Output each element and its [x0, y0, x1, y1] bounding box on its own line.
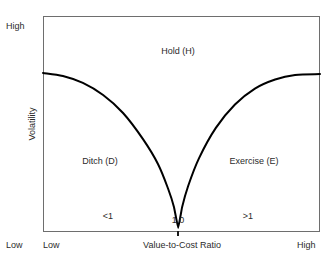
x-axis-tick-1p0: [172, 230, 184, 240]
x-tick-label-greater-than-one: >1: [243, 212, 253, 221]
x-tick-label-one: 1.0: [172, 216, 185, 225]
y-axis-low-label: Low: [6, 241, 23, 250]
region-label-exercise: Exercise (E): [229, 157, 278, 166]
y-axis-title: Volatility: [26, 16, 38, 232]
x-tick-label-less-than-one: <1: [103, 212, 113, 221]
option-space-chart: High Low Low High Volatility Value-to-Co…: [0, 0, 334, 268]
region-label-hold: Hold (H): [161, 47, 195, 56]
region-label-ditch: Ditch (D): [82, 157, 118, 166]
x-axis-low-label: Low: [43, 241, 60, 250]
x-axis-high-label: High: [297, 241, 316, 250]
x-axis-title: Value-to-Cost Ratio: [143, 241, 221, 250]
boundary-curve-path: [43, 73, 320, 228]
y-axis-high-label: High: [6, 22, 25, 31]
